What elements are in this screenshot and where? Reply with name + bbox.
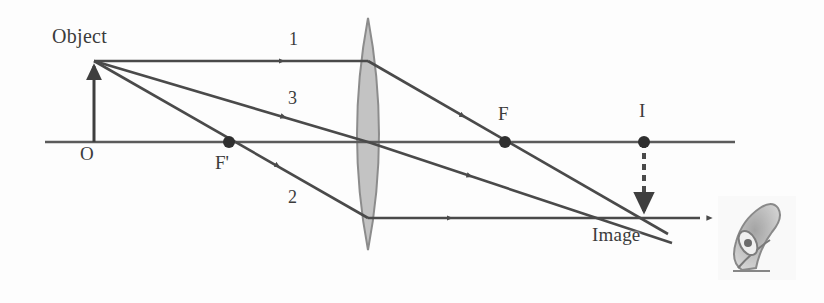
- optics-diagram-canvas: [0, 0, 824, 303]
- paper-texture: [0, 0, 824, 303]
- image-label: Image: [592, 224, 640, 246]
- ray-diagram-figure: Object O F' F I Image 1 3 2: [0, 0, 824, 303]
- far-focal-point-dot: [499, 136, 511, 148]
- image-point-dot: [638, 136, 650, 148]
- near-focal-point-label: F': [215, 152, 229, 174]
- near-focal-point-dot: [223, 136, 235, 148]
- ray-2-label: 2: [288, 187, 297, 208]
- image-point-label: I: [639, 100, 645, 122]
- optical-center-label: O: [80, 143, 94, 165]
- ray-1-label: 1: [289, 29, 298, 50]
- ray-3-label: 3: [288, 88, 297, 109]
- object-label: Object: [52, 25, 107, 48]
- far-focal-point-label: F: [498, 103, 509, 125]
